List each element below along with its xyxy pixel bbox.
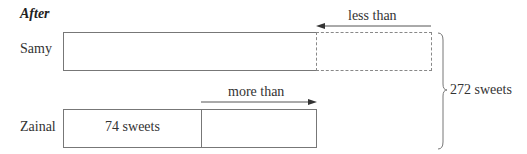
more-than-arrow bbox=[201, 99, 317, 105]
total-label: 272 sweets bbox=[450, 82, 512, 98]
total-brace-icon bbox=[438, 33, 447, 149]
less-than-arrow bbox=[316, 23, 431, 29]
diagram-lines bbox=[0, 0, 527, 154]
